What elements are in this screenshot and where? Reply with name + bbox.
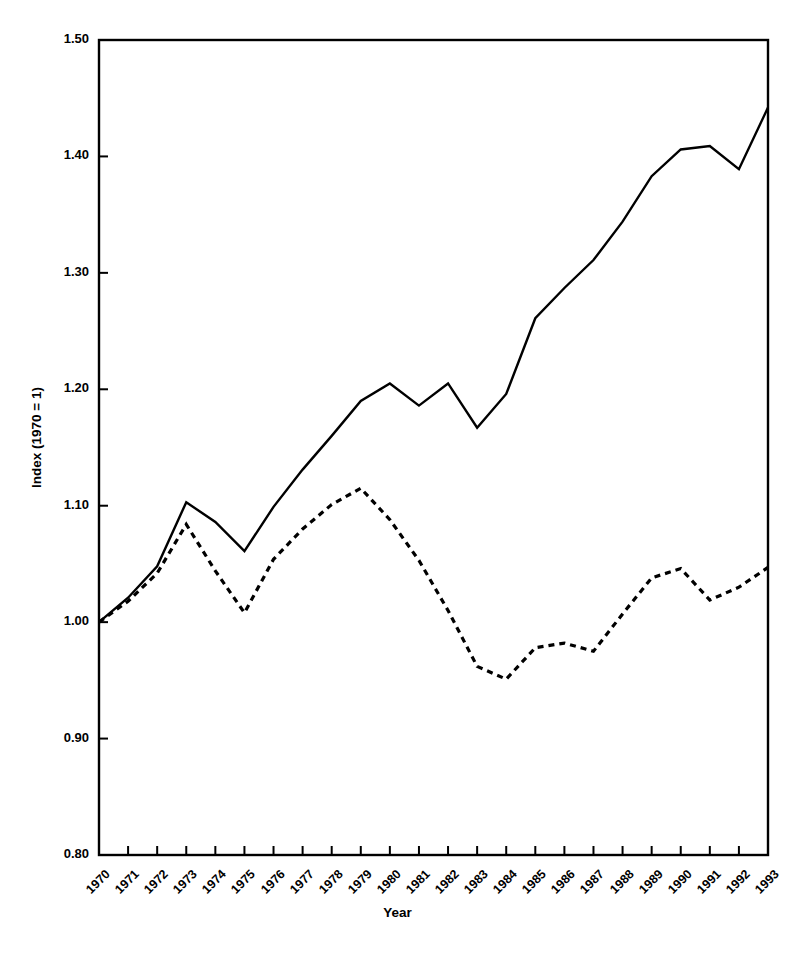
y-tick-label: 1.00	[37, 613, 89, 628]
x-axis-title: Year	[0, 905, 795, 920]
y-axis-title: Index (1970 = 1)	[29, 358, 44, 518]
x-axis-ticks	[99, 846, 768, 855]
y-tick-label: 0.80	[37, 846, 89, 861]
y-tick-label: 1.10	[37, 497, 89, 512]
plot-canvas	[0, 0, 795, 954]
y-axis-ticks	[99, 40, 108, 855]
y-tick-label: 0.90	[37, 730, 89, 745]
y-tick-label: 1.40	[37, 147, 89, 162]
series-line-dashed-series	[99, 488, 768, 679]
line-chart: 0.800.901.001.101.201.301.401.50 1970197…	[0, 0, 795, 954]
data-series-group	[99, 108, 768, 680]
y-tick-label: 1.30	[37, 264, 89, 279]
y-tick-label: 1.50	[37, 31, 89, 46]
y-tick-label: 1.20	[37, 380, 89, 395]
